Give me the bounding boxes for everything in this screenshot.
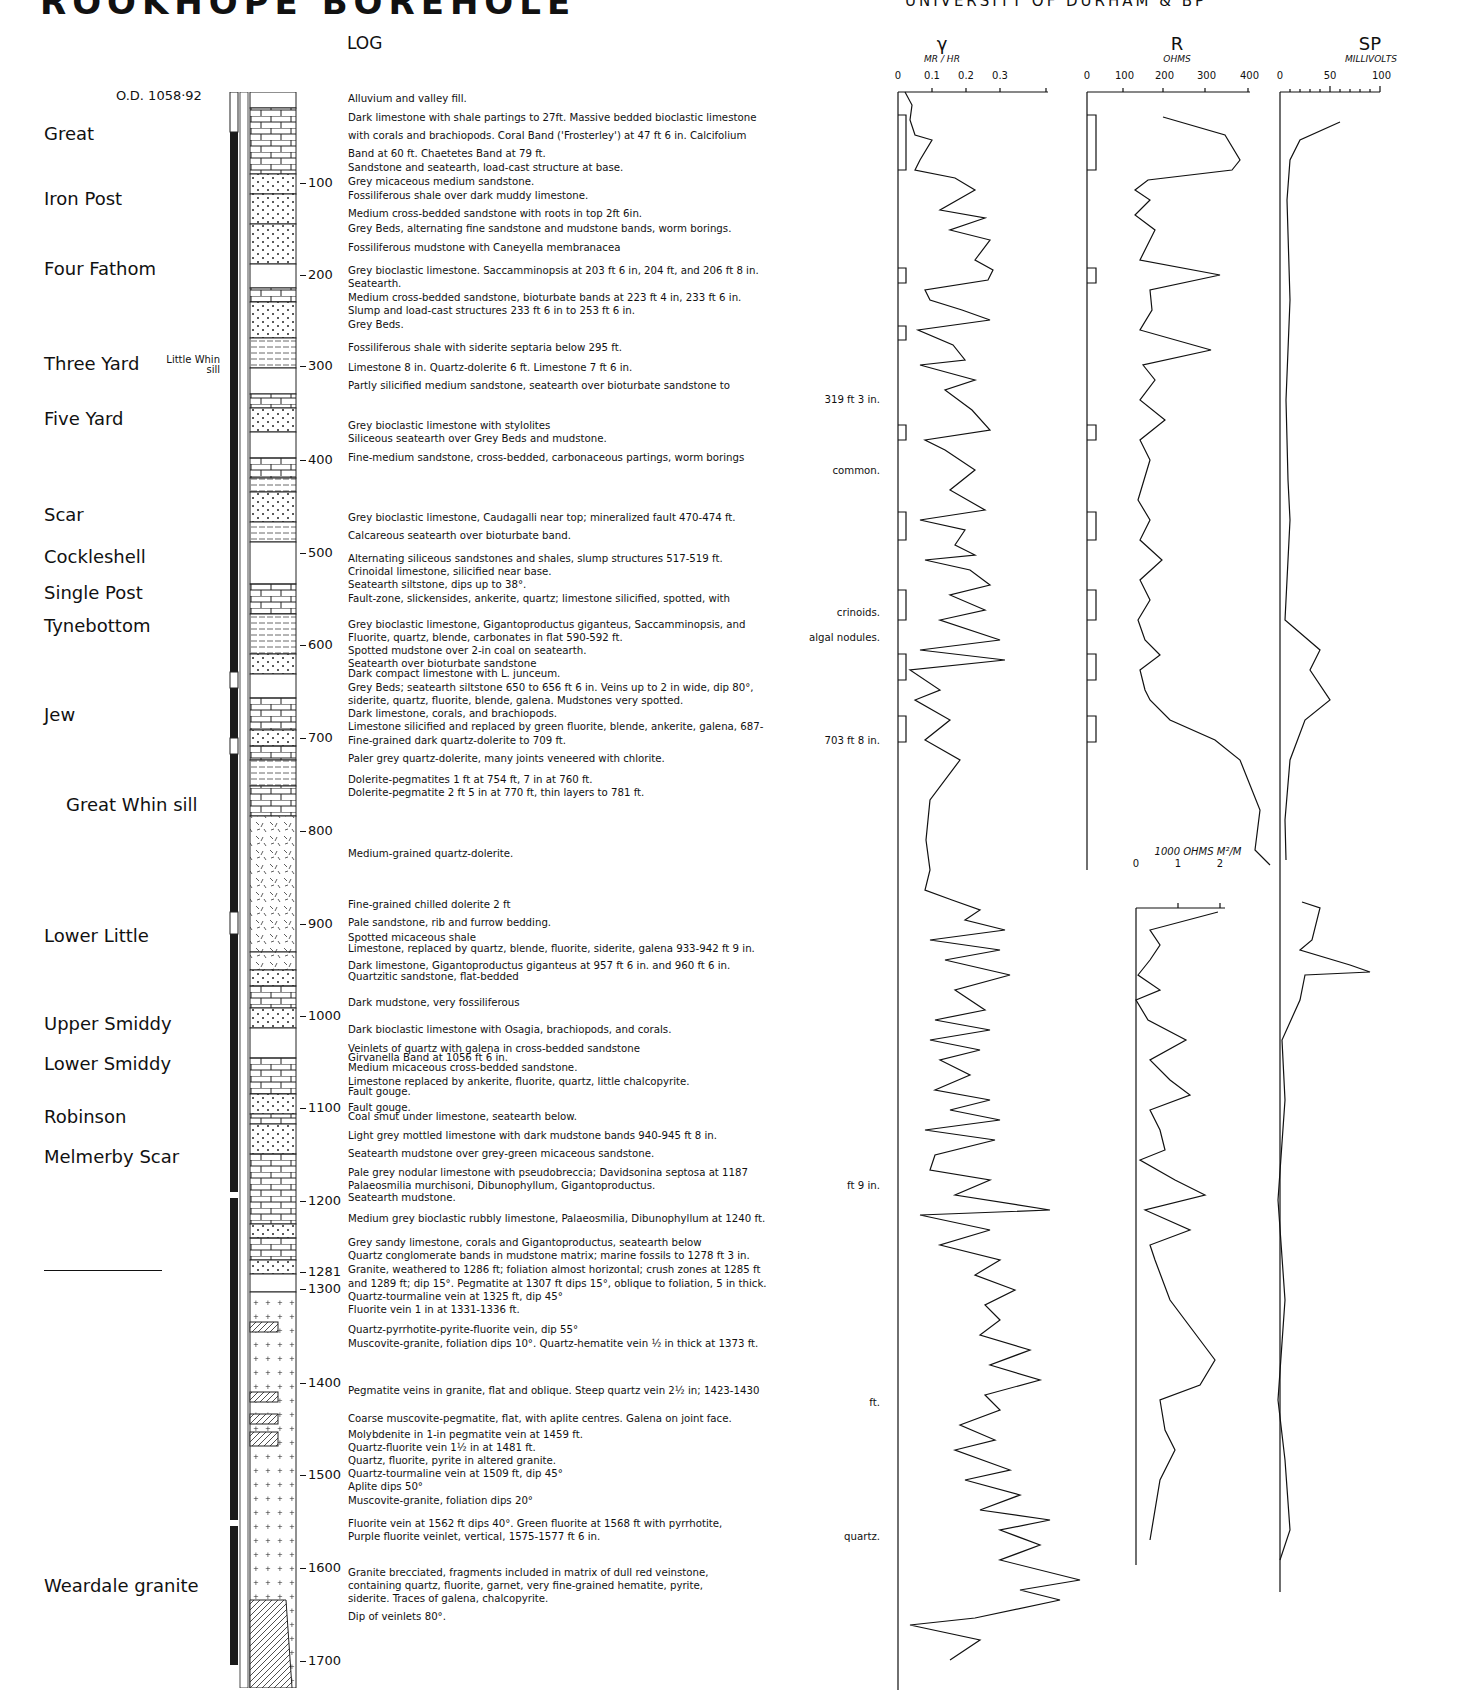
lithology-description: common.	[348, 465, 880, 477]
lithology-description: Grey Beds, alternating fine sandstone an…	[348, 223, 731, 235]
gamma-track-title: γ	[922, 33, 962, 54]
depth-tick: 200	[300, 267, 333, 282]
lithology-description: Limestone silicified and replaced by gre…	[348, 721, 763, 733]
lithology-description: Quartz-fluorite vein 1½ in at 1481 ft.	[348, 1442, 536, 1454]
lithology-description: Fossiliferous shale over dark muddy lime…	[348, 190, 588, 202]
lithology-description: 319 ft 3 in.	[348, 394, 880, 406]
depth-tick: 400	[300, 452, 333, 467]
lithology-description: Medium micaceous cross-bedded sandstone.	[348, 1062, 577, 1074]
lithology-description: ft 9 in.	[348, 1180, 880, 1192]
lithology-description: Grey micaceous medium sandstone.	[348, 176, 534, 188]
lithology-description: Molybdenite in 1-in pegmatite vein at 14…	[348, 1429, 583, 1441]
sp-track-title: SP	[1350, 33, 1390, 54]
lithology-description: Fossiliferous shale with siderite septar…	[348, 342, 622, 354]
lithology-description: crinoids.	[348, 607, 880, 619]
lithology-description: Spotted mudstone over 2-in coal on seate…	[348, 645, 586, 657]
lithology-description: Seatearth siltstone, dips up to 38°.	[348, 579, 526, 591]
axis-tick-label: 400	[1240, 70, 1256, 81]
lithology-description: Fossiliferous mudstone with Caneyella me…	[348, 242, 620, 254]
lithology-svg: +	[226, 92, 298, 1688]
lithology-description: Medium grey bioclastic rubbly limestone,…	[348, 1213, 765, 1225]
lithology-description: Partly silicified medium sandstone, seat…	[348, 380, 730, 392]
lithology-description: Dolerite-pegmatite 2 ft 5 in at 770 ft, …	[348, 787, 644, 799]
lithology-description: Grey bioclastic limestone, Caudagalli ne…	[348, 512, 736, 524]
depth-tick: 1200	[300, 1193, 341, 1208]
lithology-description: Coal smut under limestone, seatearth bel…	[348, 1111, 577, 1123]
lithology-description: Seatearth mudstone.	[348, 1192, 456, 1204]
axis-tick-label: 0.3	[992, 70, 1008, 81]
axis-tick-label: 1	[1170, 858, 1186, 869]
lithology-description: Fault-zone, slickensides, ankerite, quar…	[348, 593, 730, 605]
member-label: Lower Smiddy	[44, 1053, 171, 1074]
depth-tick: 100	[300, 175, 333, 190]
axis-tick-label: 0	[890, 70, 906, 81]
depth-tick: 1600	[300, 1560, 341, 1575]
ordnance-datum: O.D. 1058·92	[116, 88, 202, 103]
member-label: Weardale granite	[44, 1575, 199, 1596]
lithology-description: Alluvium and valley fill.	[348, 93, 467, 105]
depth-tick: 1000	[300, 1008, 341, 1023]
sp-track-unit: MILLIVOLTS	[1335, 54, 1407, 64]
geophysical-log-curves	[0, 0, 1481, 1708]
lithology-description: Medium cross-bedded sandstone, bioturbat…	[348, 292, 741, 304]
lithology-description: Coarse muscovite-pegmatite, flat, with a…	[348, 1413, 732, 1425]
lithology-description: Grey bioclastic limestone, Gigantoproduc…	[348, 619, 746, 631]
axis-tick-label: 100	[1372, 70, 1388, 81]
lithology-description: Medium-grained quartz-dolerite.	[348, 848, 513, 860]
lithology-description: Dolerite-pegmatites 1 ft at 754 ft, 7 in…	[348, 774, 593, 786]
lithology-description: Quartz-tourmaline vein at 1509 ft, dip 4…	[348, 1468, 563, 1480]
lithology-description: Light grey mottled limestone with dark m…	[348, 1130, 717, 1142]
axis-tick-label: 0	[1272, 70, 1288, 81]
resistivity-track-title: R	[1157, 33, 1197, 54]
lithology-description: Dark bioclastic limestone with Osagia, b…	[348, 1024, 671, 1036]
lithology-description: Seatearth.	[348, 278, 401, 290]
lithology-description: Pegmatite veins in granite, flat and obl…	[348, 1385, 759, 1397]
lithology-description: Slump and load-cast structures 233 ft 6 …	[348, 305, 635, 317]
member-label: Three Yard	[44, 353, 139, 374]
lithology-description: Grey bioclastic limestone with stylolite…	[348, 420, 550, 432]
lithology-description: Quartz-pyrrhotite-pyrite-fluorite vein, …	[348, 1324, 578, 1336]
lithology-description: Quartz conglomerate bands in mudstone ma…	[348, 1250, 750, 1262]
lower-resistivity-unit: 1000 OHMS M²/M	[1138, 846, 1258, 857]
depth-tick: 900	[300, 916, 333, 931]
depth-tick: 1400	[300, 1375, 341, 1390]
lithology-description: Fine-medium sandstone, cross-bedded, car…	[348, 452, 744, 464]
axis-tick-label: 0	[1128, 858, 1144, 869]
axis-tick-label: 300	[1197, 70, 1213, 81]
lithology-description: Paler grey quartz-dolerite, many joints …	[348, 753, 665, 765]
lithology-description: Pale sandstone, rib and furrow bedding.	[348, 917, 551, 929]
member-label: Great	[44, 123, 94, 144]
axis-tick-label: 100	[1115, 70, 1131, 81]
depth-tick: 1300	[300, 1281, 341, 1296]
lithology-column: +	[226, 92, 298, 1688]
lithology-description: Crinoidal limestone, silicified near bas…	[348, 566, 552, 578]
lithology-description: quartz.	[348, 1531, 880, 1543]
lithology-description: Aplite dips 50°	[348, 1481, 423, 1493]
axis-tick-label: 200	[1155, 70, 1171, 81]
member-label: Scar	[44, 504, 84, 525]
lithology-description: Sandstone and seatearth, load-cast struc…	[348, 162, 623, 174]
lithology-description: Fluorite vein at 1562 ft dips 40°. Green…	[348, 1518, 722, 1530]
lithology-description: Muscovite-granite, foliation dips 10°. Q…	[348, 1338, 758, 1350]
lithology-description: Alternating siliceous sandstones and sha…	[348, 553, 723, 565]
depth-tick: 500	[300, 545, 333, 560]
lithology-description: Dark mudstone, very fossiliferous	[348, 997, 520, 1009]
member-label: Five Yard	[44, 408, 124, 429]
member-label: Lower Little	[44, 925, 149, 946]
lithology-description: siderite, quartz, fluorite, blende, gale…	[348, 695, 683, 707]
lithology-description: Dark limestone with shale partings to 27…	[348, 112, 756, 124]
member-annotation: Little Whin sill	[160, 355, 220, 375]
resistivity-track-unit: OHMS	[1147, 54, 1207, 64]
lithology-description: Dark limestone, corals, and brachiopods.	[348, 708, 557, 720]
lithology-description: Calcareous seatearth over bioturbate ban…	[348, 530, 571, 542]
member-label: Jew	[44, 704, 75, 725]
lithology-description: Granite, weathered to 1286 ft; foliation…	[348, 1264, 760, 1276]
depth-tick: 1500	[300, 1467, 341, 1482]
depth-tick: 1100	[300, 1100, 341, 1115]
lithology-description: Fluorite vein 1 in at 1331-1336 ft.	[348, 1304, 520, 1316]
lithology-description: Quartz-tourmaline vein at 1325 ft, dip 4…	[348, 1291, 563, 1303]
lithology-description: Muscovite-granite, foliation dips 20°	[348, 1495, 533, 1507]
borehole-title: ROOKHOPE BOREHOLE	[40, 0, 576, 22]
lithology-description: Siliceous seatearth over Grey Beds and m…	[348, 433, 607, 445]
member-label: Iron Post	[44, 188, 122, 209]
